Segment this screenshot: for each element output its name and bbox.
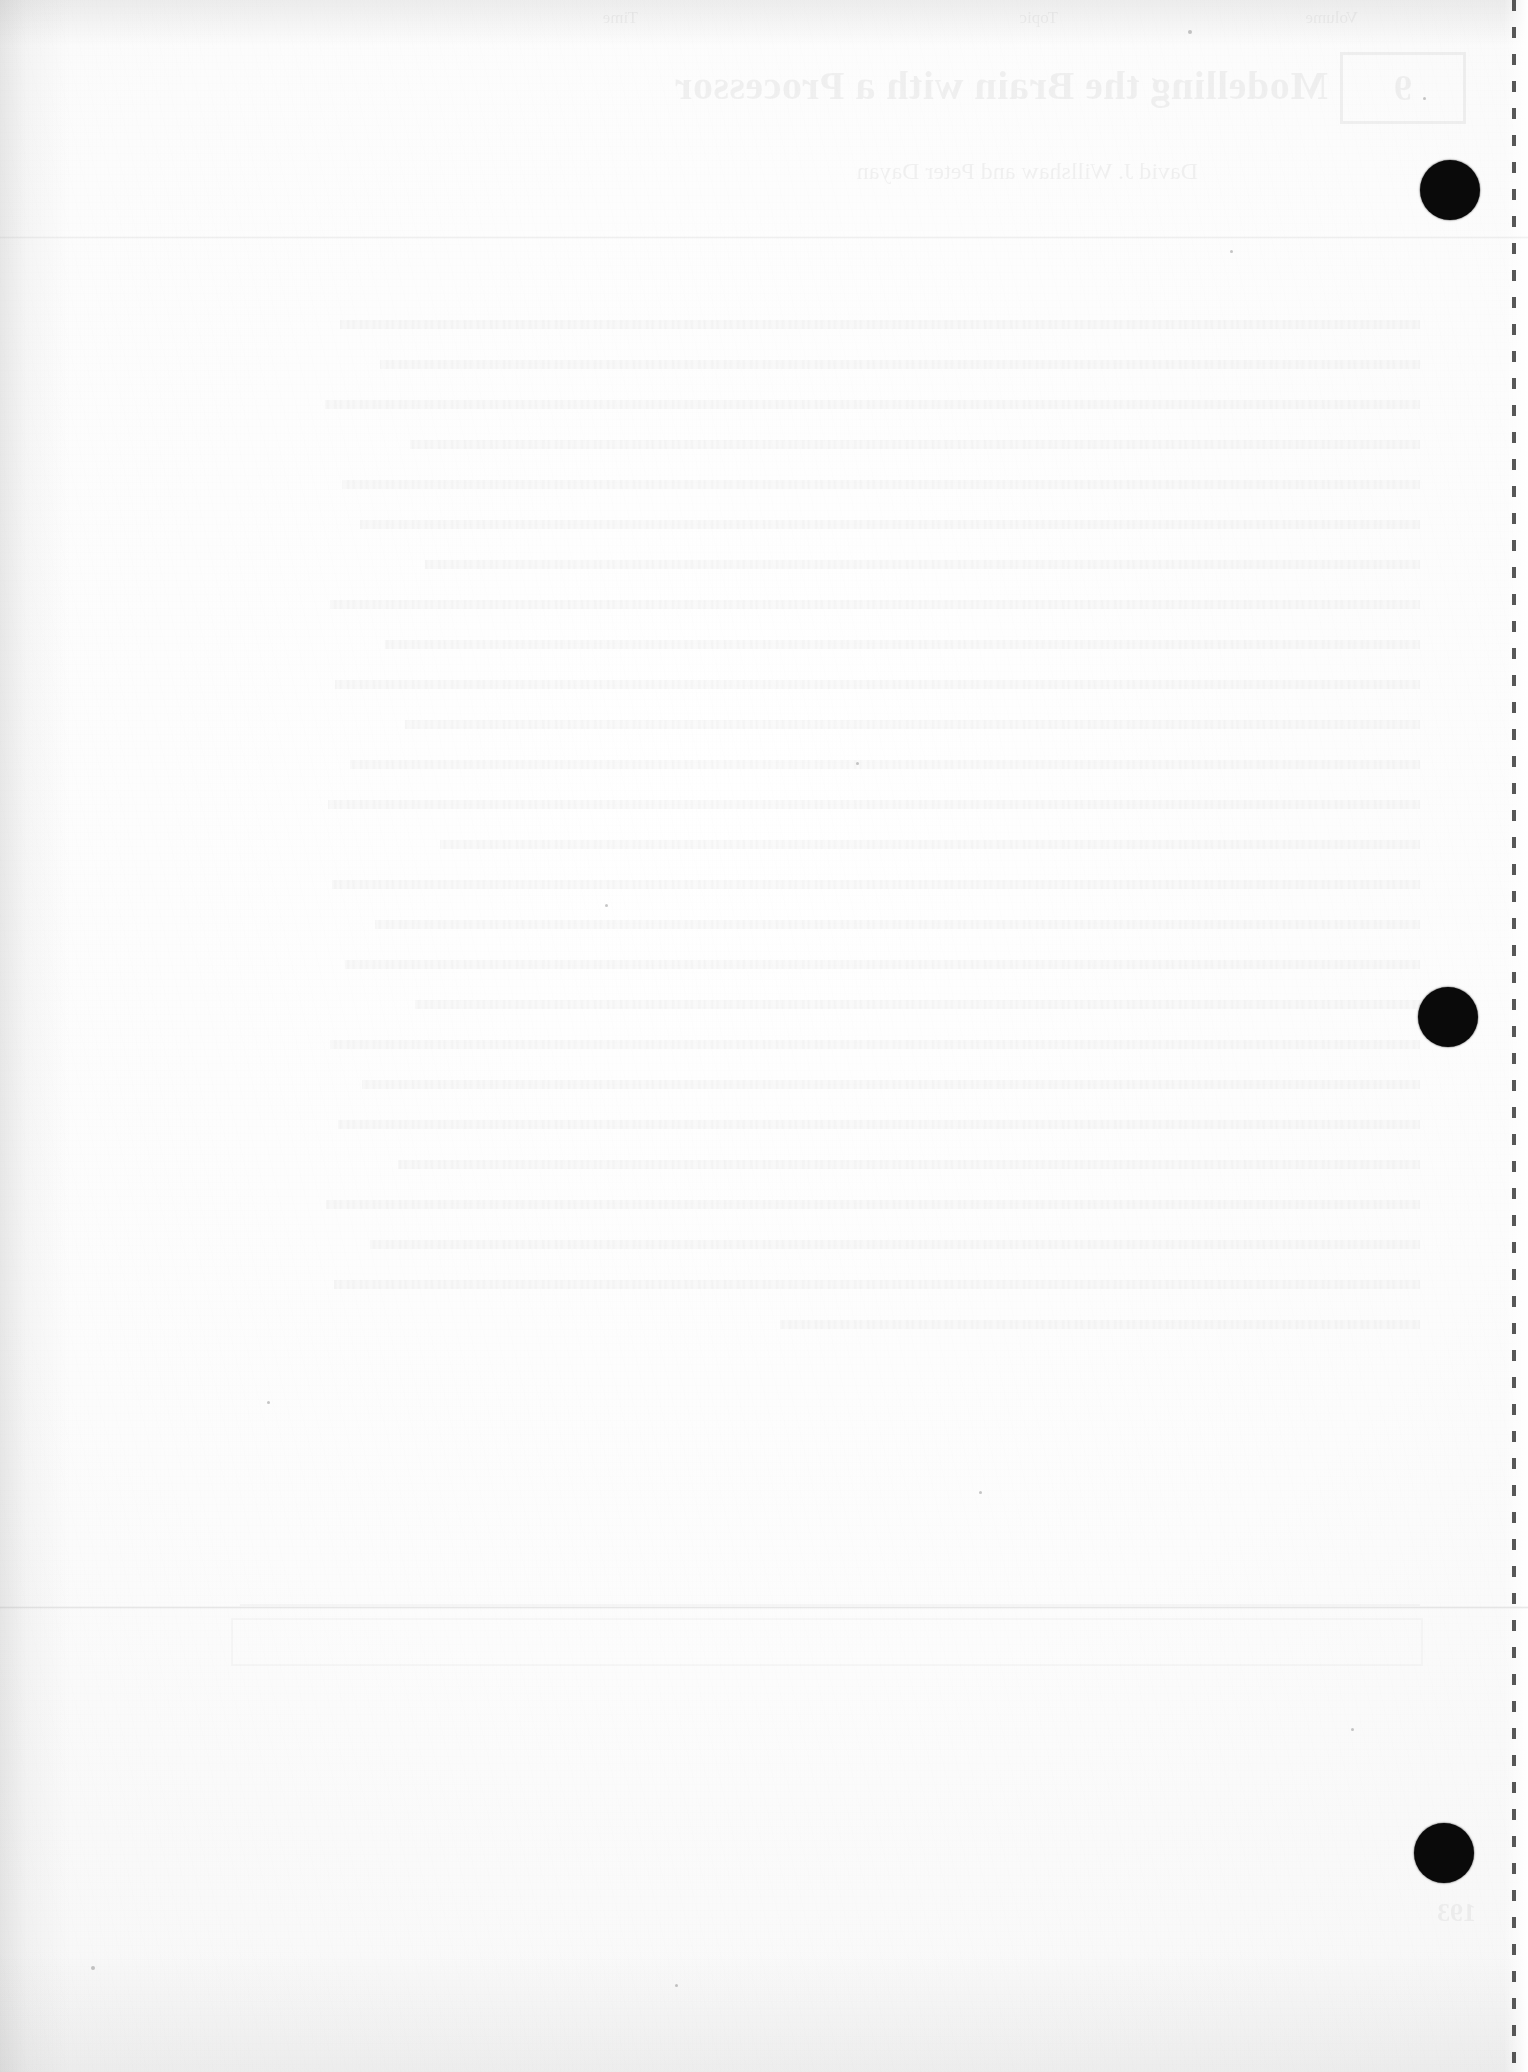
registration-dot-bottom <box>1414 1823 1474 1883</box>
right-edge-highlight <box>1504 0 1528 2072</box>
registration-dot-middle <box>1418 987 1478 1047</box>
perforation-dashed-line <box>1512 0 1516 2072</box>
binding-edge-shadow <box>0 0 70 2072</box>
bottom-edge-shadow <box>0 1952 1528 2072</box>
scanned-page: Volume Topic Time 9 Modelling the Brain … <box>0 0 1528 2072</box>
horizontal-crease <box>0 1606 1528 1609</box>
registration-dot-top <box>1420 160 1480 220</box>
horizontal-crease-faint <box>0 236 1528 239</box>
top-edge-shadow <box>0 0 1528 46</box>
paper-texture-overlay <box>0 0 1528 2072</box>
